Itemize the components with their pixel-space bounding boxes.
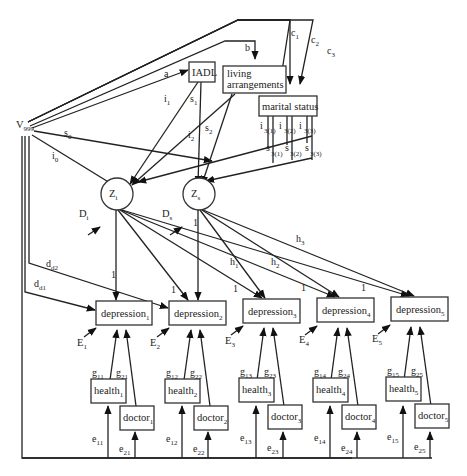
svg-text:i: i [299,120,302,131]
svg-text:E5: E5 [372,333,382,347]
svg-text:1: 1 [111,269,116,280]
svg-text:s1: s1 [190,93,198,107]
diagram-svg: V999 IADL living arrangements marital st… [0,0,467,476]
svg-text:e14: e14 [314,432,326,446]
svg-text:c3: c3 [327,45,335,59]
svg-text:3(2): 3(2) [284,127,296,135]
svg-text:e23: e23 [267,442,279,456]
svg-text:e25: e25 [414,441,426,455]
svg-text:3(3): 3(3) [304,127,316,135]
svg-text:e15: e15 [387,431,399,445]
svg-text:1: 1 [233,283,238,294]
svg-text:1: 1 [193,217,198,228]
svg-text:i1: i1 [164,93,171,107]
svg-text:i: i [260,120,263,131]
svg-text:dd2: dd2 [46,258,59,272]
svg-text:3(2): 3(2) [290,150,302,158]
svg-text:E2: E2 [150,337,160,351]
svg-text:s: s [285,142,289,153]
svg-text:3(1): 3(1) [264,127,276,135]
v999-label: V999 [16,119,35,133]
svg-text:c1: c1 [291,27,299,41]
svg-text:e24: e24 [341,442,353,456]
svg-text:E1: E1 [77,337,87,351]
svg-text:c2: c2 [311,34,319,48]
svg-text:e13: e13 [240,432,252,446]
svg-text:3(1): 3(1) [271,150,283,158]
living-label-1: living [227,68,252,79]
di-label: Di [79,208,89,222]
covariate-to-growth-paths [130,82,235,185]
svg-text:1: 1 [301,282,306,293]
path-s0 [34,131,212,161]
svg-text:e11: e11 [92,433,104,447]
svg-text:h3: h3 [296,233,305,247]
living-label-2: arrangements [227,79,284,90]
svg-text:i: i [279,120,282,131]
svg-text:e21: e21 [119,443,131,457]
svg-text:e12: e12 [166,433,178,447]
iadl-label: IADL [192,67,217,78]
marital-path-labels: i 3(1) i 3(2) i 3(3) s 3(1) s 3(2) s 3(3… [260,120,322,158]
growth-to-depression-paths [116,210,414,300]
svg-text:i0: i0 [52,150,59,164]
e-error-labels: e11 e21 e12 e22 e13 e23 e14 e24 e15 e25 [92,431,426,457]
svg-text:E4: E4 [299,334,309,348]
ds-label: Ds [162,208,173,222]
svg-text:s: s [305,142,309,153]
svg-text:1: 1 [361,282,366,293]
svg-text:E3: E3 [225,335,235,349]
svg-text:3(3): 3(3) [310,150,322,158]
marital-label: marital status [262,101,318,112]
svg-text:a: a [164,68,169,79]
svg-text:e22: e22 [193,443,205,457]
svg-text:1: 1 [171,284,176,295]
svg-text:dd1: dd1 [34,278,47,292]
svg-text:b: b [245,42,250,53]
path-diagram: V999 IADL living arrangements marital st… [0,0,467,476]
svg-text:s: s [266,142,270,153]
svg-text:s0: s0 [64,127,72,141]
svg-text:s2: s2 [205,122,213,136]
